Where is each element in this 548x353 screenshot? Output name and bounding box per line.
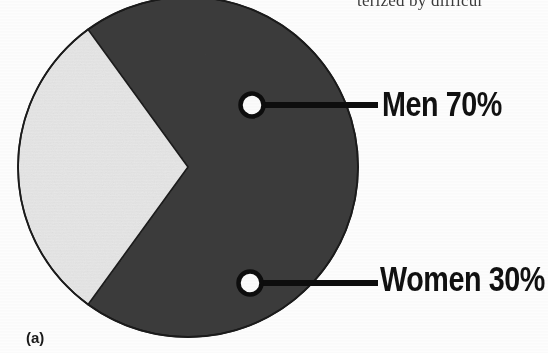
legend-label-women: Women 30%	[380, 261, 545, 296]
legend-label-men: Men 70%	[382, 86, 502, 121]
callout-marker-men	[241, 94, 264, 117]
pie-chart	[0, 0, 548, 353]
figure-container: terized by difficul Men 70%	[0, 0, 548, 353]
subfigure-caption: (a)	[26, 329, 44, 346]
callout-marker-women	[239, 272, 262, 295]
